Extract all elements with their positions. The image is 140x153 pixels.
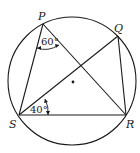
point-label-s: S	[9, 118, 17, 131]
angle-label-p: 60°	[41, 36, 59, 47]
circumcircle	[8, 17, 136, 145]
segment-qr	[118, 36, 126, 115]
point-label-p: P	[37, 10, 46, 23]
geometry-diagram: P Q R S 60° 40°	[0, 0, 140, 153]
point-label-r: R	[125, 118, 134, 131]
point-label-q: Q	[114, 22, 123, 35]
center-point	[72, 81, 75, 84]
arrowhead-icon	[44, 99, 48, 103]
angle-label-s: 40°	[30, 104, 48, 115]
segment-ps	[19, 24, 43, 115]
